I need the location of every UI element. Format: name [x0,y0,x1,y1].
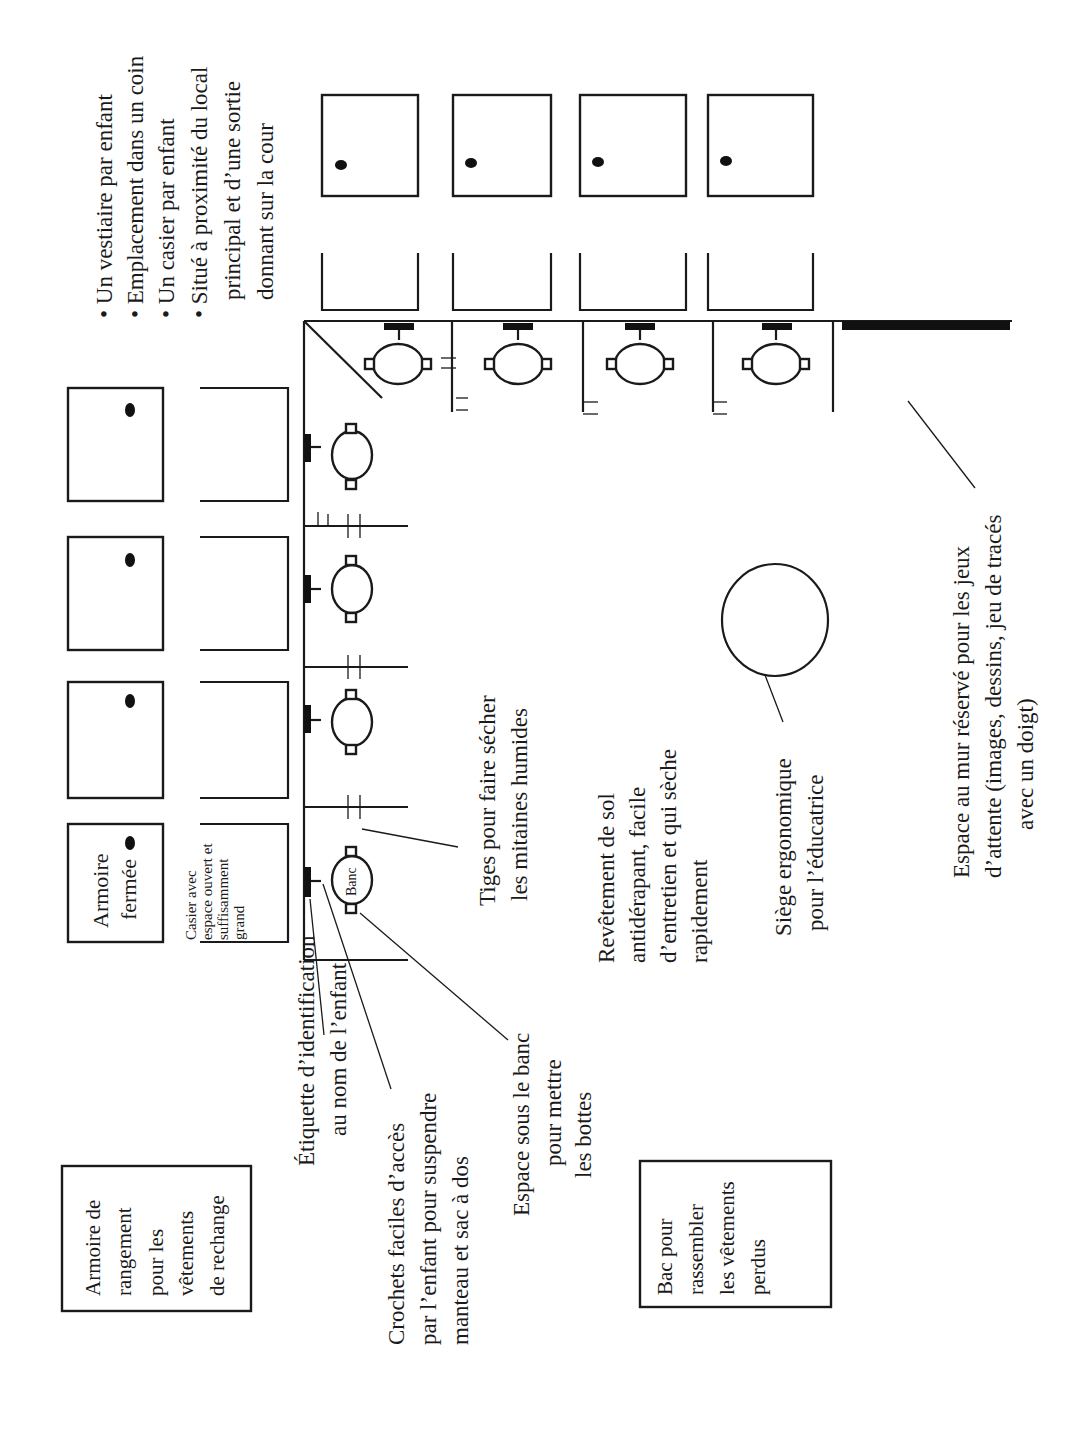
name-label-icon [304,705,311,733]
svg-text:les mitaines humides: les mitaines humides [507,708,532,901]
svg-text:Casier avec: Casier avec [183,870,199,940]
label-espace-banc: Espace sous le banc pour mettre les bott… [509,1033,596,1216]
svg-text:antidérapant, facile: antidérapant, facile [625,787,650,963]
feature-1: • Un vestiaire par enfant [92,93,117,318]
armoire-handle-icon [125,694,135,708]
bench-leg [607,359,616,369]
feature-4-line-2: principal et d’une sortie [220,81,245,300]
bench [332,698,372,746]
svg-text:perdus: perdus [746,1239,770,1295]
bench-leg [346,745,356,754]
svg-text:Tiges pour faire sécher: Tiges pour faire sécher [475,695,500,906]
casier-open [200,388,288,501]
armoire-closed [708,95,813,196]
svg-text:Espace sous le banc: Espace sous le banc [509,1033,534,1216]
svg-text:espace ouvert et: espace ouvert et [199,843,215,940]
leader-lines [310,401,975,1089]
bench-leg [346,556,356,565]
left-wall-stations: Banc [304,424,408,913]
cloakroom-floor-plan: • Un vestiaire par enfant • Emplacement … [0,0,1088,1447]
armoire-closed [322,95,418,196]
armoire-handle-icon [335,160,347,170]
educator-seat [722,564,828,676]
bench-leg [664,359,673,369]
armoire-closed [68,388,163,501]
svg-text:manteau et sac à dos: manteau et sac à dos [448,1156,473,1345]
svg-text:pour mettre: pour mettre [541,1059,566,1166]
wall-games-space [842,321,1010,330]
label-etiquette: Étiquette d’identification au nom de l’e… [294,935,351,1166]
svg-text:Siège ergonomique: Siège ergonomique [771,758,796,936]
label-crochets: Crochets faciles d’accès par l’enfant po… [384,1093,473,1345]
leader-tiges [362,829,458,847]
bench [373,344,423,384]
name-label-icon [384,323,414,330]
svg-text:suffisamment: suffisamment [215,858,231,940]
bench-leg [346,690,356,699]
name-label-icon [304,434,311,462]
top-casiers [322,253,813,310]
casier-open [322,253,418,310]
svg-text:Banc: Banc [344,867,359,896]
svg-text:fermée: fermée [116,859,141,920]
leader-espace-mur [908,401,975,488]
svg-text:Armoire de: Armoire de [81,1200,105,1296]
svg-text:Armoire: Armoire [88,853,113,928]
label-revetement: Revêtement de sol antidérapant, facile d… [594,749,712,963]
bench-leg [346,424,356,433]
armoire-closed [68,682,163,798]
name-label-icon [762,323,792,330]
bench [751,344,801,384]
bench-leg [485,359,494,369]
svg-text:les vêtements: les vêtements [715,1181,739,1295]
svg-text:avec un doigt): avec un doigt) [1013,698,1038,830]
left-armoires: Armoire fermée [68,388,163,942]
casier-open [580,253,686,310]
svg-text:Étiquette d’identification: Étiquette d’identification [294,935,319,1166]
label-tiges: Tiges pour faire sécher les mitaines hum… [475,695,532,906]
feature-list: • Un vestiaire par enfant • Emplacement … [92,55,278,318]
svg-text:Crochets faciles d’accès: Crochets faciles d’accès [384,1123,409,1345]
bench-leg [346,847,356,856]
svg-text:rangement: rangement [112,1207,136,1296]
leader-siege [765,675,783,722]
leader-espace-banc [360,913,508,1040]
bench-leg [346,904,356,913]
svg-text:vêtements: vêtements [174,1211,198,1296]
svg-text:d’entretien et qui sèche: d’entretien et qui sèche [656,749,681,963]
top-armoires [322,95,813,196]
bench-leg [346,613,356,622]
casier-open [453,253,551,310]
svg-text:Bac pour: Bac pour [653,1219,677,1295]
name-label-icon [304,575,311,603]
armoire-closed [580,95,686,196]
bench-label: Banc [344,867,359,896]
svg-text:Revêtement de sol: Revêtement de sol [594,793,619,963]
svg-text:les bottes: les bottes [571,1092,596,1178]
bench-leg [365,359,374,369]
svg-text:pour l’éducatrice: pour l’éducatrice [803,775,828,931]
feature-4: • Situé à proximité du local [187,67,212,318]
bench [332,431,372,479]
casier-open [200,537,288,650]
svg-text:grand: grand [231,905,247,940]
bench [332,565,372,613]
name-label-icon [304,867,311,897]
armoire-handle-icon [125,836,135,850]
svg-text:de rechange: de rechange [205,1195,229,1296]
left-casiers: Casier avec espace ouvert et suffisammen… [183,388,288,942]
bac-vetements-perdus: Bac pour rassembler les vêtements perdus [640,1161,831,1307]
bench [493,344,543,384]
armoire-handle-icon [465,158,477,168]
casier-open [708,253,813,310]
bench [615,344,665,384]
armoire-handle-icon [125,403,135,417]
name-label-icon [503,323,533,330]
armoire-handle-icon [125,553,135,567]
svg-text:par l’enfant pour suspendre: par l’enfant pour suspendre [416,1093,441,1345]
top-wall-stations [365,321,833,414]
armoire-handle-icon [592,157,604,167]
name-label-icon [625,323,655,330]
svg-text:pour les: pour les [144,1229,168,1296]
bench-leg [422,359,431,369]
